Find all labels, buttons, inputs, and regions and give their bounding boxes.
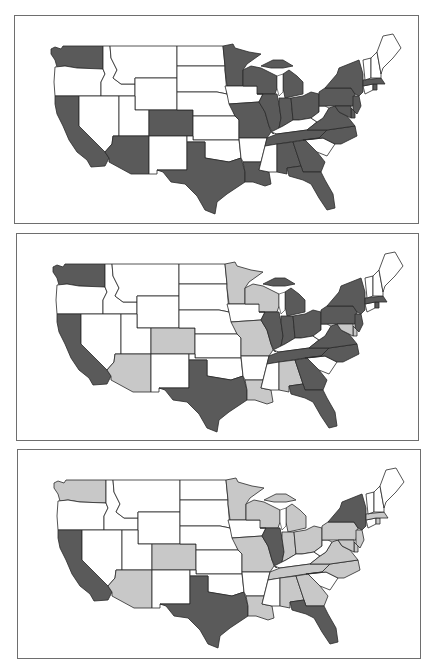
state-sd xyxy=(177,66,227,94)
state-ri xyxy=(376,518,380,524)
us-map-2 xyxy=(17,234,418,440)
state-pa xyxy=(322,522,358,540)
state-or xyxy=(54,66,105,96)
state-me xyxy=(380,468,404,508)
map-panel-3 xyxy=(17,449,421,659)
state-fl xyxy=(287,166,335,210)
us-map-3 xyxy=(18,450,420,658)
state-vt xyxy=(366,492,374,514)
state-nd xyxy=(180,480,228,500)
state-wa xyxy=(54,480,106,503)
state-sd xyxy=(180,500,230,528)
lake-michigan xyxy=(277,74,283,96)
map-panel-1 xyxy=(14,15,419,224)
state-nm xyxy=(151,354,189,392)
state-vt xyxy=(365,276,373,298)
state-fl xyxy=(290,600,338,644)
lake-michigan xyxy=(279,292,285,314)
state-wa xyxy=(53,264,105,287)
state-nm xyxy=(149,136,187,174)
state-wy xyxy=(137,296,179,328)
us-map-1 xyxy=(15,16,418,223)
state-ks xyxy=(195,334,241,358)
state-pa xyxy=(319,88,355,106)
state-co xyxy=(151,328,195,354)
state-nm xyxy=(152,570,190,608)
state-fl xyxy=(289,384,337,428)
state-ri xyxy=(373,84,377,90)
lake-michigan xyxy=(280,508,286,530)
state-vt xyxy=(363,58,371,80)
state-sd xyxy=(179,284,229,312)
state-wa xyxy=(51,46,103,69)
state-or xyxy=(56,284,107,314)
state-ks xyxy=(196,550,242,574)
state-co xyxy=(149,110,193,136)
state-wy xyxy=(138,512,180,544)
state-me xyxy=(379,252,403,292)
state-nd xyxy=(177,46,225,66)
state-me xyxy=(377,34,401,74)
map-panel-2 xyxy=(16,233,419,441)
state-wy xyxy=(135,78,177,110)
state-nd xyxy=(179,264,227,284)
state-pa xyxy=(321,306,357,324)
state-ks xyxy=(193,116,239,140)
state-ri xyxy=(375,302,379,308)
state-or xyxy=(57,500,108,530)
state-co xyxy=(152,544,196,570)
